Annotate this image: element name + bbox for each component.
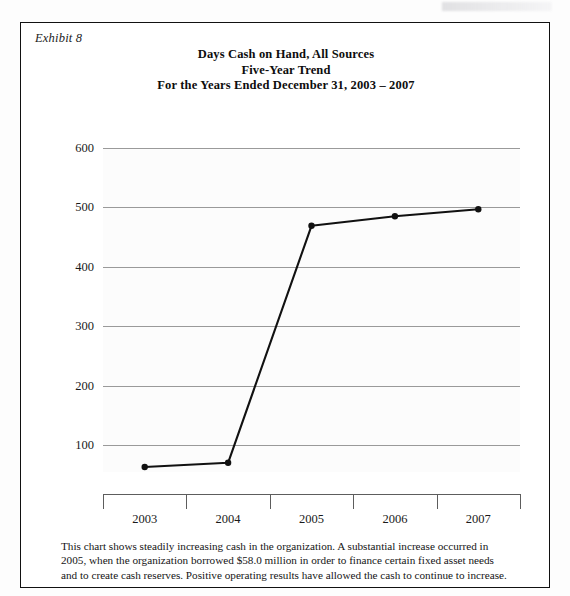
x-axis-tick-label-2006: 2006 bbox=[382, 512, 407, 527]
footnote-line-3: and to create cash reserves. Positive op… bbox=[61, 569, 507, 581]
gridline-600 bbox=[103, 148, 520, 149]
plot-area: 100200300400500600 bbox=[103, 148, 520, 472]
x-axis-tick-4 bbox=[437, 494, 438, 509]
gridline-400 bbox=[103, 267, 520, 268]
gridline-200 bbox=[103, 386, 520, 387]
y-axis-tick-label-400: 400 bbox=[75, 259, 94, 274]
scan-artifact bbox=[442, 2, 552, 11]
y-axis-tick-label-300: 300 bbox=[75, 319, 94, 334]
x-axis-tick-label-2007: 2007 bbox=[466, 512, 491, 527]
x-axis-tick-1 bbox=[186, 494, 187, 509]
gridline-300 bbox=[103, 326, 520, 327]
y-axis-tick-label-500: 500 bbox=[75, 200, 94, 215]
y-axis-tick-label-600: 600 bbox=[75, 141, 94, 156]
chart-footnote: This chart shows steadily increasing cas… bbox=[61, 539, 511, 582]
exhibit-frame: Exhibit 8 Days Cash on Hand, All Sources… bbox=[20, 22, 550, 588]
x-axis-tick-label-2003: 2003 bbox=[132, 512, 157, 527]
y-axis-tick-label-100: 100 bbox=[75, 438, 94, 453]
x-axis-tick-2 bbox=[270, 494, 271, 509]
y-axis-tick-label-200: 200 bbox=[75, 378, 94, 393]
gridline-100 bbox=[103, 445, 520, 446]
page-canvas: Exhibit 8 Days Cash on Hand, All Sources… bbox=[0, 0, 570, 596]
x-axis-line bbox=[103, 494, 521, 495]
chart: 100200300400500600 20032004200520062007 bbox=[21, 23, 551, 589]
x-axis-tick-label-2004: 2004 bbox=[216, 512, 241, 527]
x-axis-tick-label-2005: 2005 bbox=[299, 512, 324, 527]
footnote-line-2: when the organization borrowed $58.0 mil… bbox=[89, 554, 494, 566]
x-axis-tick-0 bbox=[103, 494, 104, 509]
x-axis-tick-5 bbox=[520, 494, 521, 509]
x-axis-tick-3 bbox=[353, 494, 354, 509]
gridline-500 bbox=[103, 207, 520, 208]
